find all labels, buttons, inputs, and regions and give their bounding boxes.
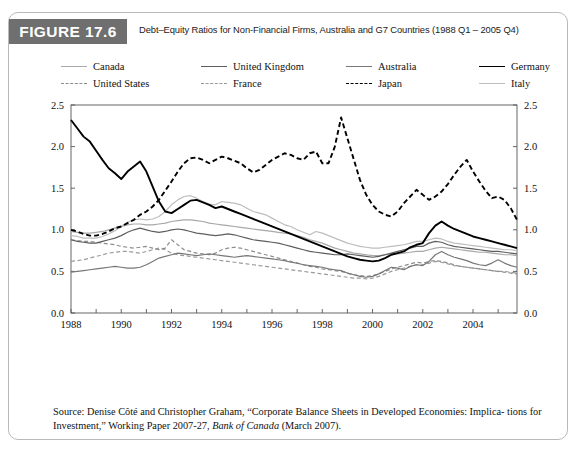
x-axis-tick-label: 2002: [412, 319, 433, 330]
x-axis-tick-label: 1998: [312, 319, 333, 330]
y-axis-tick-label-right: 2.5: [524, 100, 537, 111]
plot-series-lines: [71, 117, 517, 278]
y-axis-tick-label-right: 1.5: [524, 183, 537, 194]
legend-item-australia[interactable]: Australia: [346, 59, 417, 74]
legend-item-united-kingdom[interactable]: United Kingdom: [201, 59, 304, 74]
y-axis-tick-label-right: 0.0: [524, 308, 537, 319]
series-line-japan: [71, 117, 517, 235]
legend-item-label: United Kingdom: [233, 61, 304, 72]
legend-item-label: Australia: [378, 61, 417, 72]
y-axis-tick-label: 0.5: [51, 266, 64, 277]
debt-equity-line-chart: 0.00.51.01.52.02.5 0.00.51.01.52.02.5 19…: [9, 89, 569, 339]
y-axis-tick-label-right: 1.0: [524, 224, 537, 235]
legend-item-germany[interactable]: Germany: [479, 59, 550, 74]
y-axis-tick-label: 2.0: [51, 141, 64, 152]
source-publication: Bank of Canada: [212, 420, 279, 431]
y-axis-tick-label-right: 0.5: [524, 266, 537, 277]
legend-item-canada[interactable]: Canada: [61, 59, 125, 74]
x-axis-tick-label: 2000: [362, 319, 383, 330]
series-line-germany: [71, 120, 517, 261]
y-axis-tick-label: 1.5: [51, 183, 64, 194]
legend-item-label: France: [233, 78, 262, 89]
x-axis-tick-label: 1996: [262, 319, 283, 330]
source-note: Source: Denise Côté and Christopher Grah…: [53, 405, 543, 432]
figure-header: FIGURE 17.6 Debt–Equity Ratios for Non-F…: [9, 19, 569, 45]
legend-item-label: Canada: [93, 61, 125, 72]
y-axis-tick-label: 1.0: [51, 224, 64, 235]
source-line-1: Source: Denise Côté and Christopher Grah…: [53, 406, 505, 417]
y-axis-tick-label-right: 2.0: [524, 141, 537, 152]
y-axis-labels-left: 0.00.51.01.52.02.5: [51, 100, 64, 319]
x-axis-tick-label: 2004: [463, 319, 485, 330]
plot-axes: [71, 105, 517, 313]
x-axis-tick-label: 1988: [61, 319, 82, 330]
x-axis-tick-label: 1992: [161, 319, 182, 330]
figure-card: FIGURE 17.6 Debt–Equity Ratios for Non-F…: [8, 12, 568, 440]
figure-number-badge: FIGURE 17.6: [9, 19, 127, 44]
y-axis-tick-label: 0.0: [51, 308, 64, 319]
chart-legend: CanadaUnited StatesUnited KingdomFranceA…: [61, 59, 561, 93]
figure-title: Debt–Equity Ratios for Non-Financial Fir…: [139, 23, 559, 37]
y-axis-labels-right: 0.00.51.01.52.02.5: [524, 100, 537, 319]
series-line-canada: [71, 220, 517, 256]
legend-item-label: Italy: [511, 78, 530, 89]
legend-item-label: Germany: [511, 61, 550, 72]
plot-frame: [71, 105, 517, 313]
x-axis-tick-label: 1994: [211, 319, 233, 330]
x-axis-labels: 198819901992199419961998200020022004: [61, 319, 485, 330]
plot-tick-marks: [71, 105, 517, 313]
legend-item-label: United States: [93, 78, 149, 89]
series-line-italy: [71, 196, 517, 251]
x-axis-tick-label: 1990: [111, 319, 132, 330]
y-axis-tick-label: 2.5: [51, 100, 64, 111]
chart-plot-area: 0.00.51.01.52.02.5 0.00.51.01.52.02.5 19…: [9, 89, 569, 339]
legend-item-label: Japan: [378, 78, 402, 89]
source-line-2-suffix: (March 2007).: [279, 420, 341, 431]
